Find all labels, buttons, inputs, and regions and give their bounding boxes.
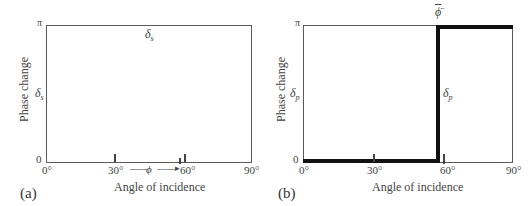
x-tick-label-90-a: 90° [244, 164, 259, 176]
x-tick-label-0-a: 0° [42, 164, 52, 176]
panel-label-b: (b) [278, 185, 296, 202]
delta-s-top-label: δs [145, 27, 154, 43]
x-tick-30-a [114, 154, 116, 162]
plot-frame-a [46, 25, 252, 163]
phi-arrow-right: ——▸ [157, 163, 180, 173]
x-tick-60-a [184, 154, 186, 162]
delta-p-step-label: δp [443, 86, 453, 102]
x-tick-label-30-b: 30° [367, 164, 382, 176]
y-tick-0-a: 0 [36, 153, 42, 165]
x-axis-label-a: Angle of incidence [114, 180, 205, 195]
delta-p-low-segment [303, 159, 439, 163]
delta-p-left-label: δp [290, 86, 300, 102]
y-tick-pi-a: π [37, 17, 42, 28]
x-tick-label-30-a: 30° [108, 164, 123, 176]
y-tick-pi-b: π [295, 17, 300, 28]
x-axis-label-b: Angle of incidence [372, 180, 463, 195]
x-tick-label-60-b: 60° [440, 164, 455, 176]
delta-s-left-label: δs [35, 86, 44, 102]
y-axis-label-a: Phase change [17, 57, 32, 122]
x-tick-60-b [443, 154, 445, 164]
delta-p-high-segment [436, 25, 513, 29]
x-tick-30-b [373, 154, 375, 162]
x-tick-label-0-b: 0° [299, 164, 309, 176]
x-tick-label-60-a: 60° [180, 164, 195, 176]
y-axis-label-b: Phase change [274, 57, 289, 122]
delta-p-step-segment [436, 25, 440, 163]
plot-frame-b [303, 25, 513, 163]
phi-symbol-a: ϕ [146, 163, 152, 175]
panel-label-a: (a) [20, 185, 37, 202]
y-tick-0-b: 0 [293, 153, 299, 165]
x-tick-label-90-b: 90° [506, 164, 521, 176]
phi-bar-label: ϕ̄ [435, 5, 441, 20]
